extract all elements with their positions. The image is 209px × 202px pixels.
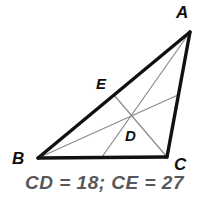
vertex-label-B: B bbox=[12, 149, 24, 168]
side-BC bbox=[38, 157, 167, 158]
point-label-E: E bbox=[96, 75, 107, 92]
side-CA bbox=[167, 32, 190, 157]
point-label-D: D bbox=[125, 127, 136, 144]
vertex-label-A: A bbox=[175, 3, 188, 22]
median-C-to-E bbox=[114, 95, 167, 157]
figure-caption: CD = 18; CE = 27 bbox=[0, 172, 209, 194]
